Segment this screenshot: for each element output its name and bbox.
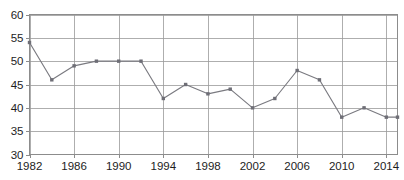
data-point-marker [117,59,120,62]
data-point-marker [184,83,187,86]
chart-canvas: 30354045505560 1982198619901994199820022… [0,0,404,180]
data-point-marker [318,78,321,81]
data-point-marker [340,115,343,118]
y-axis-tick-label: 50 [11,55,24,67]
data-point-marker [139,59,142,62]
x-axis-tick-label: 2010 [329,160,355,172]
data-point-marker [50,78,53,81]
data-point-marker [295,69,298,72]
data-point-marker [72,64,75,67]
line-chart: 30354045505560 1982198619901994199820022… [0,0,404,180]
x-axis-tick-label: 1998 [195,160,221,172]
y-axis-tick-label: 40 [11,102,24,114]
y-axis-tick-label: 35 [11,125,24,137]
y-axis-tick-labels: 30354045505560 [11,9,30,161]
y-axis-tick-label: 55 [11,32,24,44]
x-axis-tick-label: 1982 [17,160,43,172]
x-axis-tick-label: 2002 [240,160,266,172]
data-point-markers [28,41,399,119]
data-point-marker [28,41,31,44]
data-point-marker [385,115,388,118]
data-point-marker [362,106,365,109]
x-axis-tick-label: 2014 [374,160,400,172]
data-point-marker [273,97,276,100]
x-axis-tick-label: 1990 [106,160,132,172]
y-axis-tick-label: 45 [11,79,24,91]
data-point-marker [206,92,209,95]
data-point-marker [396,115,399,118]
x-axis-tick-label: 1994 [151,160,177,172]
data-point-marker [162,97,165,100]
data-point-marker [251,106,254,109]
data-point-marker [229,87,232,90]
data-point-marker [95,59,98,62]
x-axis-tick-labels: 198219861990199419982002200620102014 [17,155,400,172]
gridlines [30,15,398,155]
y-axis-tick-label: 60 [11,9,24,21]
x-axis-tick-label: 2006 [284,160,310,172]
x-axis-tick-label: 1986 [61,160,87,172]
